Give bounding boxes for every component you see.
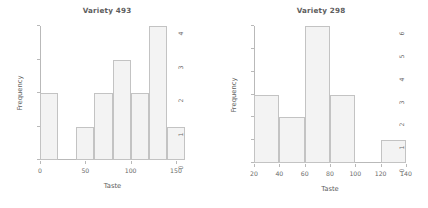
x-tick-label: 0: [30, 167, 50, 174]
y-axis-title: Frequency: [16, 63, 24, 123]
panel-title: Variety 493: [0, 6, 214, 15]
x-tick-label: 100: [121, 167, 141, 174]
y-tick: [37, 25, 40, 26]
x-tick: [355, 164, 356, 167]
x-tick: [406, 164, 407, 167]
y-tick: [37, 159, 40, 160]
panel-variety-493: Variety 493 01234 050100150 Taste Freque…: [0, 0, 214, 208]
x-tick: [381, 164, 382, 167]
y-tick: [251, 71, 254, 72]
histogram-bar: [305, 26, 330, 163]
x-axis-title: Taste: [40, 182, 185, 190]
histogram-bar: [131, 93, 149, 160]
x-tick-label: 40: [269, 170, 289, 177]
bars-group: [254, 26, 406, 163]
y-tick: [37, 92, 40, 93]
y-tick: [251, 139, 254, 140]
x-tick: [40, 161, 41, 164]
x-tick-label: 120: [371, 170, 391, 177]
x-tick: [279, 164, 280, 167]
plot-area: 0123456 20406080100120140: [254, 26, 406, 163]
histogram-bar: [76, 127, 94, 161]
x-tick: [176, 161, 177, 164]
x-tick: [254, 164, 255, 167]
panel-variety-298: Variety 298 0123456 20406080100120140 Ta…: [214, 0, 428, 208]
y-tick: [37, 59, 40, 60]
histogram-figure: Variety 493 01234 050100150 Taste Freque…: [0, 0, 428, 208]
y-tick: [251, 116, 254, 117]
y-tick-label: 3: [177, 60, 184, 74]
x-tick-label: 60: [295, 170, 315, 177]
y-tick-label: 6: [398, 27, 405, 41]
bars-group: [40, 26, 185, 160]
histogram-bar: [40, 93, 58, 160]
x-tick-label: 20: [244, 170, 264, 177]
y-tick-label: 3: [398, 95, 405, 109]
histogram-bar: [149, 26, 167, 160]
y-tick: [251, 162, 254, 163]
y-tick: [251, 94, 254, 95]
histogram-bar: [113, 60, 131, 161]
y-tick-label: 1: [398, 141, 405, 155]
y-tick-label: 5: [398, 49, 405, 63]
panel-title: Variety 298: [214, 6, 428, 15]
y-tick-label: 4: [398, 72, 405, 86]
y-tick-label: 2: [398, 118, 405, 132]
y-tick-label: 2: [177, 94, 184, 108]
y-tick-label: 1: [177, 127, 184, 141]
x-tick: [305, 164, 306, 167]
x-tick: [330, 164, 331, 167]
x-tick: [131, 161, 132, 164]
histogram-bar: [254, 95, 279, 164]
histogram-bar: [279, 117, 304, 163]
y-tick-label: 4: [177, 27, 184, 41]
plot-area: 01234 050100150: [40, 26, 185, 160]
y-tick: [251, 25, 254, 26]
x-tick-label: 50: [75, 167, 95, 174]
y-tick: [251, 48, 254, 49]
x-tick-label: 80: [320, 170, 340, 177]
x-tick-label: 140: [396, 170, 416, 177]
x-tick: [85, 161, 86, 164]
x-tick-label: 150: [166, 167, 186, 174]
y-axis-title: Frequency: [230, 65, 238, 125]
y-tick: [37, 126, 40, 127]
histogram-bar: [94, 93, 112, 160]
histogram-bar: [330, 95, 355, 164]
x-tick-label: 100: [345, 170, 365, 177]
x-axis-title: Taste: [254, 185, 406, 193]
